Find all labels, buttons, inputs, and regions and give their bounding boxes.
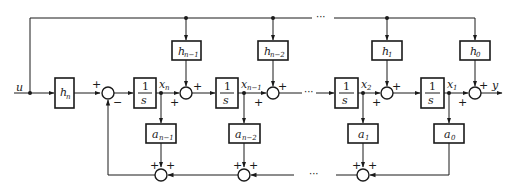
gain-block-hn: h n: [55, 78, 74, 108]
svg-text:+: +: [193, 80, 202, 93]
svg-text:n−1: n−1: [247, 84, 262, 92]
svg-text:s: s: [342, 94, 348, 107]
output-label-y: y: [491, 79, 499, 92]
svg-text:1: 1: [343, 80, 350, 93]
input-signal: u: [14, 81, 54, 95]
svg-text:−: −: [113, 96, 122, 109]
state-label-xn: x n: [159, 78, 170, 92]
svg-text:2: 2: [366, 84, 372, 92]
svg-text:1: 1: [388, 51, 392, 59]
gain-block-h1: h 1: [372, 18, 402, 86]
svg-text:+: +: [233, 159, 242, 172]
svg-text:+: +: [368, 159, 377, 172]
integrator-block-3: 1 s: [335, 78, 358, 108]
svg-text:n−1: n−1: [184, 51, 199, 59]
svg-text:a: a: [235, 128, 242, 141]
state-label-xn-1: x n−1: [241, 78, 262, 92]
svg-text:n−2: n−2: [270, 51, 285, 59]
svg-text:+: +: [352, 159, 361, 172]
svg-text:n: n: [165, 84, 170, 92]
svg-text:1: 1: [142, 80, 149, 93]
ellipsis-middle: ···: [304, 86, 314, 97]
svg-text:+: +: [392, 80, 401, 93]
svg-text:s: s: [223, 94, 229, 107]
svg-text:s: s: [428, 94, 434, 107]
svg-text:+: +: [150, 159, 159, 172]
svg-text:+: +: [170, 96, 179, 109]
svg-text:1: 1: [224, 80, 231, 93]
svg-text:a: a: [152, 128, 159, 141]
svg-text:s: s: [141, 94, 147, 107]
ellipsis-top: ···: [316, 11, 326, 22]
svg-text:a: a: [358, 128, 365, 141]
svg-text:1: 1: [429, 80, 436, 93]
integrator-block-4: 1 s: [421, 78, 444, 108]
svg-text:1: 1: [365, 134, 369, 142]
svg-text:+: +: [166, 159, 175, 172]
summing-junction-output: + +: [458, 79, 488, 109]
svg-text:+: +: [92, 78, 101, 91]
state-label-x1: x 1: [447, 78, 457, 92]
svg-text:1: 1: [453, 84, 457, 92]
svg-text:+: +: [479, 79, 488, 92]
integrator-block-1: 1 s: [134, 78, 156, 108]
ellipsis-bottom: ···: [309, 168, 319, 179]
svg-text:0: 0: [451, 134, 456, 142]
svg-text:+: +: [278, 80, 287, 93]
svg-text:0: 0: [476, 51, 481, 59]
svg-text:n−1: n−1: [159, 134, 174, 142]
input-label-u: u: [16, 81, 23, 94]
svg-text:+: +: [458, 96, 467, 109]
svg-text:+: +: [254, 96, 263, 109]
svg-text:+: +: [249, 159, 258, 172]
block-diagram: ··· u h n + − 1 s x n + + 1: [0, 0, 515, 194]
svg-text:a: a: [444, 128, 451, 141]
svg-text:n: n: [66, 93, 71, 101]
integrator-block-2: 1 s: [216, 78, 238, 108]
svg-text:n−2: n−2: [242, 134, 257, 142]
gain-block-hn-2: h n−2: [258, 18, 288, 86]
svg-text:+: +: [372, 96, 381, 109]
state-label-x2: x 2: [361, 78, 372, 92]
gain-block-hn-1: h n−1: [172, 18, 201, 86]
